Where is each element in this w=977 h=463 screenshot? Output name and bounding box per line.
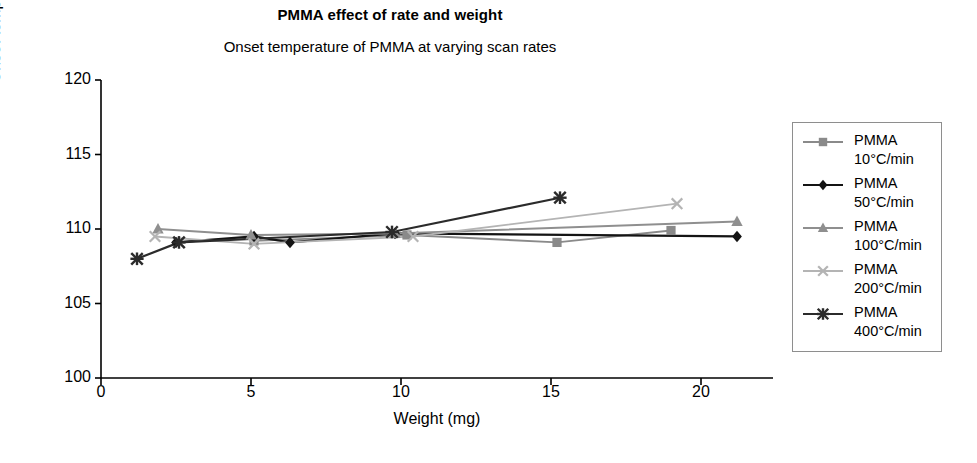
- data-point-diamond: [732, 231, 742, 243]
- x-tick-label: 20: [681, 384, 721, 400]
- chart-subtitle: Onset temperature of PMMA at varying sca…: [0, 38, 780, 55]
- series-0: [254, 230, 671, 242]
- legend-label-primary: PMMA: [854, 261, 898, 277]
- data-point-square: [819, 138, 827, 146]
- series-markers-0: [249, 226, 675, 247]
- chart-page: PMMA effect of rate and weight Onset tem…: [0, 0, 977, 463]
- x-axis-label: Weight (mg): [101, 410, 773, 428]
- legend-label-secondary: 400°C/min: [854, 323, 922, 339]
- series-markers-4: [130, 191, 566, 265]
- data-point-star: [130, 252, 143, 265]
- y-tick-label: 115: [47, 146, 91, 162]
- legend-item-3[interactable]: PMMA200°C/min: [799, 262, 939, 304]
- data-point-square: [666, 226, 675, 235]
- data-point-diamond: [171, 237, 181, 249]
- series-4: [137, 198, 560, 259]
- legend-marker-square-icon: [799, 133, 851, 151]
- data-point-triangle: [389, 227, 400, 237]
- series-markers-1: [171, 228, 742, 248]
- data-point-star: [385, 226, 398, 239]
- y-tick-label: 110: [47, 220, 91, 236]
- legend-label-secondary: 50°C/min: [854, 194, 914, 210]
- y-tick-label: 105: [47, 295, 91, 311]
- x-tick-label: 10: [381, 384, 421, 400]
- legend-item-1[interactable]: PMMA50°C/min: [799, 176, 939, 218]
- data-point-diamond: [285, 237, 295, 249]
- data-point-diamond: [390, 228, 400, 240]
- legend-marker-x-icon: [799, 262, 851, 280]
- legend-marker-diamond-icon: [799, 176, 851, 194]
- legend-marker-star-icon: [799, 305, 851, 323]
- data-point-star: [817, 308, 829, 320]
- data-point-star: [553, 191, 566, 204]
- x-tick-label: 0: [81, 384, 121, 400]
- series-markers-2: [152, 216, 742, 240]
- legend-item-0[interactable]: PMMA10°C/min: [799, 133, 939, 175]
- legend-item-2[interactable]: PMMA100°C/min: [799, 219, 939, 261]
- series-2: [158, 222, 737, 235]
- data-point-star: [172, 236, 185, 249]
- data-point-square: [552, 238, 561, 247]
- data-point-triangle: [731, 216, 742, 226]
- x-tick-label: 15: [531, 384, 571, 400]
- data-point-square: [402, 230, 411, 239]
- y-tick-label: 120: [47, 71, 91, 87]
- data-point-x: [672, 198, 683, 209]
- chart-legend: PMMA10°C/minPMMA50°C/minPMMA100°C/minPMM…: [792, 122, 942, 352]
- data-point-diamond: [249, 231, 259, 243]
- legend-label-primary: PMMA: [854, 218, 898, 234]
- axis-lines: [101, 80, 773, 378]
- data-point-x: [408, 231, 419, 242]
- series-3: [155, 204, 677, 244]
- data-point-x: [150, 231, 161, 242]
- legend-label-secondary: 10°C/min: [854, 151, 914, 167]
- legend-label-secondary: 200°C/min: [854, 280, 922, 296]
- data-point-triangle: [152, 223, 163, 233]
- data-point-diamond: [819, 180, 828, 191]
- x-tick-label: 5: [231, 384, 271, 400]
- series-markers-3: [150, 198, 683, 249]
- legend-label-secondary: 100°C/min: [854, 237, 922, 253]
- y-axis-label: Onset temperature (°C): [0, 0, 4, 120]
- legend-item-4[interactable]: PMMA400°C/min: [799, 305, 939, 347]
- data-point-x: [249, 239, 260, 250]
- legend-label-primary: PMMA: [854, 304, 898, 320]
- y-tick-label: 100: [47, 369, 91, 385]
- legend-marker-triangle-icon: [799, 219, 851, 237]
- legend-label-primary: PMMA: [854, 175, 898, 191]
- data-point-square: [249, 236, 258, 245]
- legend-label-primary: PMMA: [854, 132, 898, 148]
- data-point-triangle: [245, 229, 256, 239]
- chart-title: PMMA effect of rate and weight: [0, 6, 780, 23]
- series-1: [176, 233, 737, 242]
